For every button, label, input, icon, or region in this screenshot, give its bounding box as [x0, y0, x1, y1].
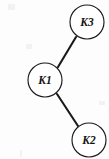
node-k1-label: K1	[37, 74, 51, 86]
node-k2[interactable]: K2	[72, 123, 106, 157]
graph-svg: K3 K1 K2	[0, 0, 109, 159]
edge-k1-k3	[58, 37, 76, 67]
edge-k1-k2	[57, 94, 78, 126]
node-k2-label: K2	[81, 134, 96, 146]
node-k3-label: K3	[79, 16, 94, 28]
node-k3[interactable]: K3	[70, 5, 104, 39]
node-k1[interactable]: K1	[28, 63, 62, 97]
diagram-canvas: K3 K1 K2	[0, 0, 109, 159]
